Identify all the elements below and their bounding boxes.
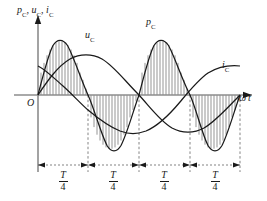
x-axis-label-omega: ω: [239, 92, 246, 103]
waveform-plot: [0, 0, 267, 201]
y-axis-label-uc: uC: [32, 4, 42, 15]
interval-label-3: T 4: [153, 170, 175, 192]
curve-label-pc-subscript: C: [151, 23, 156, 30]
curve-label-ic: iC: [222, 60, 229, 73]
y-axis-label-uc-subscript: C: [37, 11, 42, 18]
interval-label-2-denominator: 4: [102, 182, 124, 193]
curve-label-uc-subscript: C: [90, 36, 95, 43]
x-axis-label: ω t: [239, 93, 251, 103]
curve-label-ic-subscript: C: [225, 66, 230, 73]
y-axis-label-ic: iC: [46, 4, 53, 15]
interval-label-2-numerator: T: [102, 170, 124, 181]
curve-label-pc: pC: [146, 17, 156, 30]
y-axis-label-sep-1: ,: [27, 4, 32, 15]
interval-label-1: T 4: [52, 170, 74, 192]
interval-label-4: T 4: [204, 170, 226, 192]
interval-label-4-numerator: T: [204, 170, 226, 181]
interval-label-3-numerator: T: [153, 170, 175, 181]
interval-label-3-denominator: 4: [153, 182, 175, 193]
origin-label: O: [27, 98, 34, 108]
y-axis-label-pc: pC: [17, 4, 27, 15]
y-axis-label: pC, uC, iC: [17, 5, 53, 18]
x-axis-label-t: t: [248, 92, 251, 103]
interval-label-4-denominator: 4: [204, 182, 226, 193]
interval-label-2: T 4: [102, 170, 124, 192]
hatch-region-positive-2: [142, 41, 187, 95]
y-axis-label-pc-subscript: C: [22, 11, 27, 18]
y-axis-label-ic-subscript: C: [49, 11, 54, 18]
interval-label-1-denominator: 4: [52, 182, 74, 193]
curve-label-uc: uC: [85, 30, 95, 43]
interval-label-1-numerator: T: [52, 170, 74, 181]
figure-capacitor-power-waveform: pC, uC, iC O uC pC iC ω t T 4 T 4 T 4 T …: [0, 0, 267, 201]
